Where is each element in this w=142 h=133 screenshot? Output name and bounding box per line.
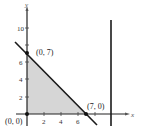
vertex-point: [84, 112, 88, 116]
x-tick-label: 4: [59, 118, 63, 126]
point-label: (7, 0): [87, 102, 105, 111]
point-label: (0, 0): [5, 117, 23, 126]
feasible-region-graph: 10 6 4 2 2 4 6 y x (0, 7) (7, 0) (0, 0): [0, 0, 142, 133]
vertex-point: [25, 51, 29, 55]
vertex-point: [25, 112, 29, 116]
y-tick-label: 2: [19, 94, 23, 102]
x-axis-arrow-icon: [125, 113, 130, 116]
y-axis-label: y: [24, 1, 29, 9]
x-axis-label: x: [130, 111, 135, 119]
y-tick-label: 10: [17, 25, 25, 33]
x-tick-label: 6: [76, 118, 80, 126]
y-tick-label: 4: [19, 76, 23, 84]
y-tick-label: 6: [19, 59, 23, 67]
point-label: (0, 7): [36, 48, 54, 57]
x-tick-label: 2: [42, 118, 46, 126]
